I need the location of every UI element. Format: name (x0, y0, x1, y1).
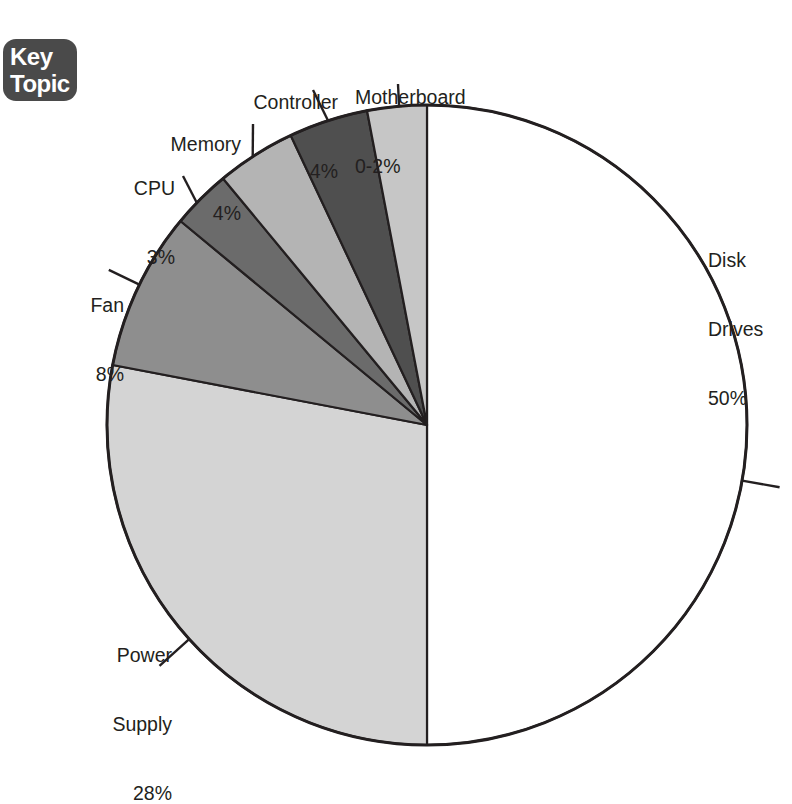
label-disk-drives-name: Disk (708, 249, 763, 272)
label-disk-drives-name2: Drives (708, 318, 763, 341)
label-controller-value: 4% (0, 160, 338, 183)
label-controller: Controller 4% (0, 45, 338, 229)
label-power-supply-name: Power (0, 644, 172, 667)
label-power-supply: Power Supply 28% (0, 598, 172, 804)
label-motherboard-value: 0-2% (355, 155, 466, 178)
leader-line-disk-drives (742, 481, 780, 488)
label-fan-value: 8% (0, 363, 124, 386)
label-controller-name: Controller (0, 91, 338, 114)
label-power-supply-name2: Supply (0, 713, 172, 736)
label-disk-drives-value: 50% (708, 387, 763, 410)
pie-slice-disk-drives (427, 105, 747, 745)
label-power-supply-value: 28% (0, 782, 172, 804)
label-disk-drives: Disk Drives 50% (708, 203, 763, 456)
label-motherboard: Motherboard 0-2% (355, 40, 466, 224)
label-motherboard-name: Motherboard (355, 86, 466, 109)
